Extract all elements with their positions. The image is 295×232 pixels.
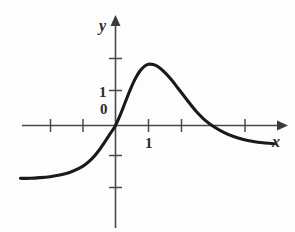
y-axis-label: y bbox=[99, 18, 106, 34]
y-axis-tick-label-1: 1 bbox=[99, 85, 107, 100]
curve-path bbox=[20, 64, 274, 178]
graph-figure: y x 1 0 1 bbox=[0, 0, 295, 232]
x-axis-arrowhead bbox=[277, 121, 288, 131]
origin-label: 0 bbox=[100, 102, 108, 117]
plot-canvas bbox=[0, 0, 295, 232]
x-axis-label: x bbox=[272, 134, 280, 150]
x-axis-tick-label-1: 1 bbox=[145, 136, 153, 151]
y-axis-arrowhead bbox=[111, 15, 121, 26]
